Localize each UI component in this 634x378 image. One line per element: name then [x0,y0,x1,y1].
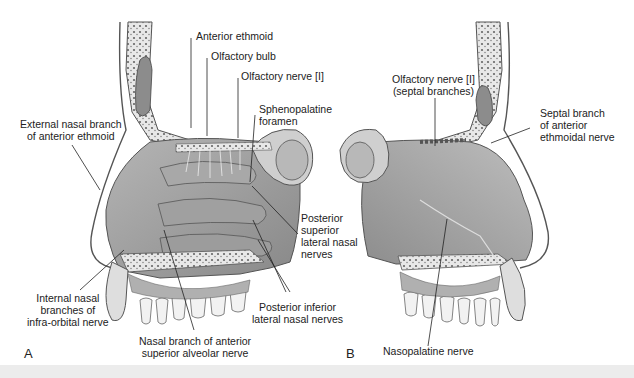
panel-label-a: A [24,346,33,361]
label-line: Posterior inferior [252,301,343,313]
label-posterior-superior-lateral-nasal: Posterior superior lateral nasal nerves [301,212,358,260]
label-line: foramen [259,115,332,127]
label-line: of anterior [540,119,615,131]
panel-label-b: B [346,346,355,361]
label-line: lateral nasal [301,236,358,248]
label-line: nerves [301,248,358,260]
label-line: ethmoidal nerve [540,131,615,143]
label-external-nasal-branch: External nasal branch of anterior ethmoi… [20,118,122,142]
label-line: Sphenopalatine [259,103,332,115]
label-nasal-branch-anterior-superior-alveolar: Nasal branch of anterior superior alveol… [139,335,251,359]
panel-b-drawing [340,22,548,326]
anatomy-figure: Anterior ethmoid Olfactory bulb Olfactor… [0,0,634,378]
label-line: Nasal branch of anterior [139,335,251,347]
label-line: superior alveolar nerve [139,347,251,359]
label-line: lateral nasal nerves [252,313,343,325]
label-line: infra-orbital nerve [27,316,109,328]
label-line: Internal nasal [27,292,109,304]
label-line: Septal branch [540,107,615,119]
panel-a-drawing [91,22,313,324]
label-line: of anterior ethmoid [20,130,122,142]
label-nasopalatine-nerve: Nasopalatine nerve [383,345,473,357]
label-line: (septal branches) [392,85,475,97]
label-line: Olfactory nerve [I] [392,73,475,85]
label-septal-branch-anterior-ethmoidal: Septal branch of anterior ethmoidal nerv… [540,107,615,143]
label-line: External nasal branch [20,118,122,130]
label-anterior-ethmoid: Anterior ethmoid [196,30,273,42]
label-olfactory-bulb: Olfactory bulb [211,50,276,62]
label-olfactory-septal-branches: Olfactory nerve [I] (septal branches) [392,73,475,97]
bottom-strip [0,365,634,378]
label-posterior-inferior-lateral-nasal: Posterior inferior lateral nasal nerves [252,301,343,325]
label-line: Posterior [301,212,358,224]
label-line: branches of [27,304,109,316]
label-sphenopalatine-foramen: Sphenopalatine foramen [259,103,332,127]
label-internal-nasal-branches: Internal nasal branches of infra-orbital… [27,292,109,328]
label-line: superior [301,224,358,236]
label-olfactory-nerve: Olfactory nerve [I] [241,70,324,82]
